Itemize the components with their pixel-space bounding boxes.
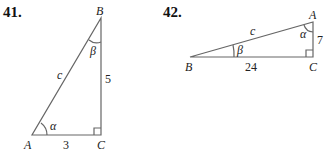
alpha-arc: [41, 123, 47, 135]
problem-42: 42. A B C α β c 7 24: [163, 4, 323, 74]
alpha-label: α: [300, 27, 307, 41]
triangle-diagrams: 41. B A C β α c 5 3 42. A B C α β c 7 24: [0, 0, 330, 152]
vertex-a-label: A: [23, 138, 32, 152]
vertex-b-label: B: [96, 4, 104, 18]
problem-number: 42.: [163, 4, 182, 20]
beta-label: β: [89, 44, 96, 58]
right-angle-marker: [94, 128, 101, 135]
right-triangle: [32, 18, 101, 135]
vertex-b-label: B: [185, 60, 193, 74]
alpha-label: α: [50, 119, 57, 133]
beta-label: β: [236, 43, 243, 57]
problem-number: 41.: [3, 4, 22, 20]
vertex-c-label: C: [309, 60, 318, 74]
right-angle-marker: [306, 50, 313, 57]
vertex-a-label: A: [308, 8, 317, 22]
problem-41: 41. B A C β α c 5 3: [3, 4, 111, 152]
side-horizontal-label: 3: [63, 138, 69, 152]
side-vertical-label: 5: [105, 72, 111, 86]
side-c-label: c: [57, 68, 63, 82]
side-c-label: c: [250, 24, 256, 38]
beta-arc: [233, 45, 234, 57]
side-vertical-label: 7: [317, 33, 323, 47]
vertex-c-label: C: [97, 138, 106, 152]
side-horizontal-label: 24: [245, 60, 257, 74]
beta-arc: [89, 40, 101, 43]
